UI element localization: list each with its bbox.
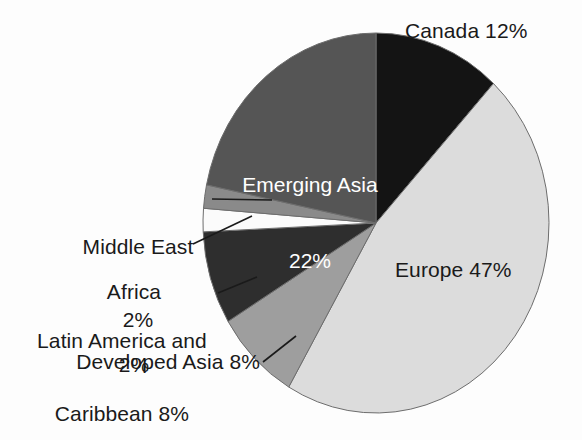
slice-label-europe: Europe 47%	[395, 258, 512, 282]
slice-label-latin-america-line2: Caribbean 8%	[24, 402, 220, 426]
pie-chart-figure: Canada 12% Europe 47% Emerging Asia 22% …	[0, 0, 582, 440]
slice-label-canada: Canada 12%	[405, 19, 527, 43]
slice-label-emerging-asia-name: Emerging Asia	[230, 172, 390, 197]
slice-label-developed-asia: Developed Asia 8%	[40, 350, 260, 374]
slice-label-emerging-asia-value: 22%	[230, 248, 390, 273]
